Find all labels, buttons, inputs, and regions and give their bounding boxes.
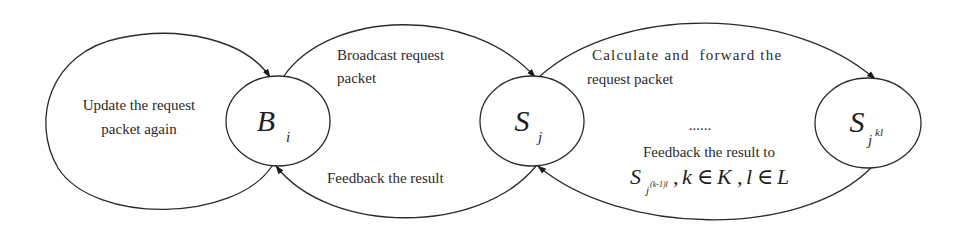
node-s-j-kl-superscript: kl xyxy=(875,126,883,138)
node-b-i-main: B xyxy=(257,104,275,137)
label-feedback-to-line: Feedback the result to xyxy=(643,144,775,160)
formula-s: S xyxy=(630,164,641,189)
label-calculate-line-1: Calculate and forward the xyxy=(592,47,782,63)
label-broadcast: Broadcast request packet xyxy=(337,47,445,86)
node-s-j-main: S xyxy=(515,104,530,137)
svg-text:B: B xyxy=(257,104,275,137)
svg-text:S: S xyxy=(850,105,865,138)
formula-set-k: K xyxy=(716,164,733,189)
formula-comma-2: , xyxy=(737,164,743,189)
node-b-i-subscript: i xyxy=(286,129,290,145)
label-calculate-line-2: request packet xyxy=(587,71,674,87)
formula-comma-1: , xyxy=(673,164,679,189)
node-s-j-kl: S j kl xyxy=(815,78,921,168)
label-broadcast-line-1: Broadcast request xyxy=(337,47,445,63)
label-broadcast-line-2: packet xyxy=(337,70,377,86)
label-feedback: Feedback the result xyxy=(327,170,444,186)
label-feedback-line-1: Feedback the result xyxy=(327,170,444,186)
label-calculate-forward: Calculate and forward the request packet xyxy=(587,47,782,87)
formula-subscript-j: j xyxy=(644,184,649,196)
formula-element-of-1: ∈ xyxy=(697,164,713,189)
label-self-loop-line-1: Update the request xyxy=(83,97,196,113)
label-ellipsis: ...... xyxy=(689,117,712,133)
formula-feedback-target: S j (k-1)l , k ∈ K , l ∈ L xyxy=(630,164,789,196)
formula-set-l: L xyxy=(776,164,789,189)
node-s-j: S j xyxy=(480,76,584,166)
svg-text:S: S xyxy=(515,104,530,137)
formula-element-of-2: ∈ xyxy=(757,164,773,189)
label-self-loop-line-2: packet again xyxy=(101,121,177,137)
request-flow-diagram: B i S j S j kl Update the request packet… xyxy=(0,0,964,229)
formula-l: l xyxy=(746,164,752,189)
node-b-i: B i xyxy=(226,76,330,166)
label-self-loop: Update the request packet again xyxy=(83,97,196,137)
formula-k: k xyxy=(682,164,693,189)
label-feedback-to: ...... Feedback the result to xyxy=(643,117,775,160)
node-s-j-kl-main: S xyxy=(850,105,865,138)
formula-superscript: (k-1)l xyxy=(650,180,669,189)
